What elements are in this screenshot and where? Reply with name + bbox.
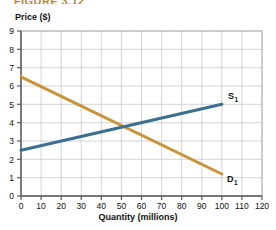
- y-tick-label-1: 1: [9, 173, 14, 183]
- y-tick-label-6: 6: [9, 81, 14, 91]
- y-tick-label-2: 2: [9, 155, 14, 165]
- supply-demand-chart: 9 8 7 6 5 4 3 2 1 0 0 10 20 30: [0, 0, 276, 230]
- supply-label-base: S: [228, 91, 234, 101]
- y-tick-label-0: 0: [9, 191, 14, 201]
- x-tick-label-20: 20: [56, 201, 66, 211]
- x-tick-label-110: 110: [235, 201, 249, 211]
- y-tick-label-8: 8: [9, 45, 14, 55]
- x-tick-label-10: 10: [36, 201, 46, 211]
- y-tick-label-5: 5: [9, 100, 14, 110]
- demand-label-subscript: 1: [234, 179, 238, 186]
- figure-container: FIGURE 3.12 Price ($): [0, 0, 276, 230]
- y-tick-label-7: 7: [9, 63, 14, 73]
- x-tick-label-120: 120: [255, 201, 269, 211]
- y-tick-label-9: 9: [9, 26, 14, 36]
- x-tick-label-90: 90: [197, 201, 207, 211]
- x-tick-label-0: 0: [19, 201, 24, 211]
- x-axis-title: Quantity (millions): [0, 212, 276, 222]
- supply-label-subscript: 1: [235, 96, 239, 103]
- x-tick-label-60: 60: [137, 201, 147, 211]
- demand-label-base: D: [227, 174, 234, 184]
- x-tick-label-50: 50: [117, 201, 127, 211]
- x-tick-label-80: 80: [177, 201, 187, 211]
- y-tick-label-3: 3: [9, 136, 14, 146]
- x-tick-label-70: 70: [157, 201, 167, 211]
- x-tick-label-100: 100: [215, 201, 229, 211]
- x-tick-label-40: 40: [97, 201, 107, 211]
- y-tick-label-4: 4: [9, 118, 14, 128]
- x-tick-label-30: 30: [76, 201, 86, 211]
